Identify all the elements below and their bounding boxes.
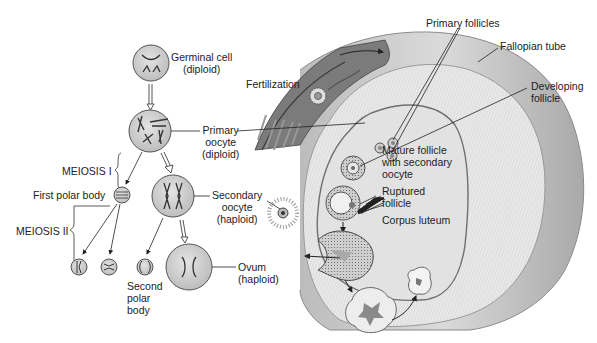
primary-oocyte-line3: (diploid) — [202, 148, 239, 160]
label-corpus-luteum: Corpus luteum — [382, 214, 450, 226]
secondary-oocyte-line2: oocyte — [212, 201, 262, 213]
secondary-oocyte-line3: (haploid) — [212, 213, 262, 225]
released-oocyte — [269, 199, 297, 227]
label-developing-follicle: Developing follicle — [531, 80, 584, 104]
ovum — [166, 244, 236, 290]
primary-oocyte-line1: Primary — [202, 124, 239, 136]
germinal-cell-line2: (diploid) — [171, 63, 232, 75]
meiosis-1-bracket — [115, 153, 122, 189]
developing-follicle-line2: follicle — [531, 92, 584, 104]
ovum-line2: (haploid) — [238, 273, 279, 285]
label-ovum: Ovum (haploid) — [238, 261, 279, 285]
polar-body-b — [101, 259, 117, 275]
label-fertilization: Fertilization — [246, 78, 300, 90]
label-secondary-oocyte: Secondary oocyte (haploid) — [212, 189, 262, 225]
mature-follicle-line2: with secondary — [382, 156, 452, 168]
label-ruptured-follicle: Ruptured follicle — [382, 185, 425, 209]
mature-follicle-line1: Mature follicle — [382, 144, 452, 156]
ovum-line1: Ovum — [238, 261, 279, 273]
primary-oocyte-line2: oocyte — [202, 136, 239, 148]
label-meiosis-2: MEIOSIS II — [16, 225, 69, 237]
second-polar-body-line1: Second — [127, 280, 163, 292]
arrow-primary-to-secondary — [161, 152, 173, 173]
mature-follicle-line3: oocyte — [382, 168, 452, 180]
label-mature-follicle: Mature follicle with secondary oocyte — [382, 144, 452, 180]
second-polar-body — [137, 259, 153, 275]
arrow-to-second-polar-body — [147, 218, 163, 254]
label-primary-oocyte: Primary oocyte (diploid) — [202, 124, 239, 160]
developing-follicle-line1: Developing — [531, 80, 584, 92]
germinal-cell — [133, 45, 169, 81]
secondary-oocyte-line1: Secondary — [212, 189, 262, 201]
arrow-secondary-to-ovum — [180, 220, 188, 243]
label-meiosis-1: MEIOSIS I — [62, 165, 112, 177]
label-first-polar-body: First polar body — [33, 189, 105, 201]
meiosis-2-bracket — [70, 206, 110, 266]
ruptured-follicle-line1: Ruptured — [382, 185, 425, 197]
first-polar-body — [114, 187, 130, 203]
arrow-to-first-polar-body — [126, 152, 142, 184]
label-germinal-cell: Germinal cell (diploid) — [171, 51, 232, 75]
second-polar-body-line3: body — [127, 304, 163, 316]
ruptured-follicle-line2: follicle — [382, 197, 425, 209]
label-primary-follicles: Primary follicles — [426, 17, 500, 29]
developing-follicle — [341, 156, 365, 180]
germinal-cell-line1: Germinal cell — [171, 51, 232, 63]
label-fallopian-tube: Fallopian tube — [500, 40, 566, 52]
oogenesis-diagram: Germinal cell (diploid) Primary oocyte (… — [0, 0, 597, 343]
arrow-germinal-to-primary — [147, 84, 154, 110]
second-polar-body-line2: polar — [127, 292, 163, 304]
label-second-polar-body: Second polar body — [127, 280, 163, 316]
polar-body-a — [71, 259, 87, 275]
